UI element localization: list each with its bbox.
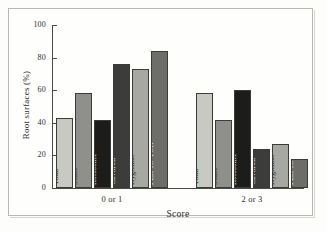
figure-root: 020406080100 Root surfaces (%) Score Tit… (0, 0, 327, 232)
bar: Titan (196, 93, 213, 188)
bar-label: Hygienist (272, 155, 276, 185)
bar: Titan (56, 118, 73, 188)
bar-label: Cavitron (113, 158, 117, 185)
bar-label: Titan (56, 169, 60, 185)
bar: PER-IO-TOR (291, 159, 308, 188)
bar: PER-IO-TOR (151, 51, 168, 188)
bar-label-wrap: Cavitron (114, 184, 129, 185)
bar-label-wrap: Rotosonic (95, 184, 110, 185)
bar: Rotosonic (94, 120, 111, 188)
bar-label-wrap: Sonic (76, 184, 91, 185)
y-axis-title: Root surfaces (%) (21, 35, 31, 175)
bar-label: PER-IO-TOR (151, 142, 155, 185)
y-tick-mark (52, 25, 57, 26)
bar-label-wrap: Cavitron (254, 184, 269, 185)
y-tick-mark (52, 90, 57, 91)
bar-label-wrap: PER-IO-TOR (292, 184, 307, 185)
y-axis-line (52, 25, 53, 189)
bar-label: Sonic (215, 167, 219, 185)
bar-label: Cavitron (253, 158, 257, 185)
bar: Cavitron (253, 149, 270, 188)
bar-label-wrap: Titan (57, 184, 72, 185)
group-label: 0 or 1 (56, 194, 168, 204)
bar: Sonic (75, 93, 92, 188)
bar-label-wrap: Hygienist (133, 184, 148, 185)
bar: Sonic (215, 120, 232, 188)
bar-label: Rotosonic (234, 154, 238, 185)
y-tick-mark (52, 188, 57, 189)
x-axis-title: Score (52, 209, 304, 219)
bar-label-wrap: Titan (197, 184, 212, 185)
bar: Rotosonic (234, 90, 251, 188)
bar: Hygienist (132, 69, 149, 188)
x-axis-line (52, 188, 304, 189)
y-tick-label: 100 (16, 21, 46, 29)
bar-label-wrap: Hygienist (273, 184, 288, 185)
y-tick-mark (52, 58, 57, 59)
bar-label-wrap: Rotosonic (235, 184, 250, 185)
bar-label-wrap: PER-IO-TOR (152, 184, 167, 185)
bar: Cavitron (113, 64, 130, 188)
y-tick-label: 0 (16, 184, 46, 192)
bar-label: Rotosonic (94, 154, 98, 185)
bar-label: PER-IO-TOR (291, 159, 295, 185)
bar-label: Sonic (75, 167, 79, 185)
plot-area: 020406080100 Root surfaces (%) Score Tit… (0, 0, 327, 232)
bar: Hygienist (272, 144, 289, 188)
group-label: 2 or 3 (196, 194, 308, 204)
bar-label-wrap: Sonic (216, 184, 231, 185)
bar-label: Titan (196, 169, 200, 185)
bar-label: Hygienist (132, 155, 136, 185)
